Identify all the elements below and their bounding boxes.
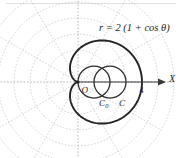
grid-spoke-030 bbox=[78, 34, 161, 82]
origin-label: O bbox=[82, 85, 89, 95]
x-tick-4-label: 4 bbox=[140, 86, 144, 95]
grid-spoke-150 bbox=[0, 34, 78, 82]
grid-spoke-210 bbox=[0, 82, 78, 130]
x-axis-label: X bbox=[168, 73, 176, 84]
cardioid-figure: r = 2 (1 + cos θ) O C 0 C 4 X bbox=[0, 0, 182, 158]
polar-cardioid-plot: r = 2 (1 + cos θ) O C 0 C 4 X bbox=[0, 0, 182, 158]
center-c-label: C bbox=[119, 98, 126, 108]
x-axis-arrowhead bbox=[158, 79, 166, 86]
origin-point bbox=[77, 81, 80, 84]
center-c0-subscript: 0 bbox=[105, 102, 109, 109]
center-c0-label-group: C 0 bbox=[99, 98, 109, 109]
equation-label: r = 2 (1 + cos θ) bbox=[99, 22, 170, 34]
